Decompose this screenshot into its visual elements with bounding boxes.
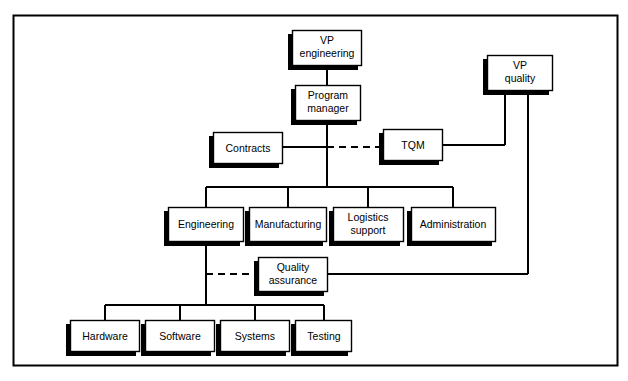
node-label-line2: support [350, 224, 385, 236]
node-manufacturing[interactable]: Manufacturing [245, 208, 327, 247]
node-label-line1: Program [308, 89, 349, 101]
node-systems[interactable]: Systems [216, 321, 290, 357]
node-label-line1: Quality [277, 261, 310, 273]
node-administration[interactable]: Administration [407, 208, 496, 247]
node-label-line1: Logistics [348, 211, 389, 223]
node-tqm[interactable]: TQM [379, 130, 443, 166]
node-testing[interactable]: Testing [291, 321, 352, 357]
node-vp-engineering[interactable]: VP engineering [288, 31, 362, 71]
org-chart-diagram: VP engineering Program manager VP qualit… [0, 0, 628, 381]
node-program-manager[interactable]: Program manager [291, 86, 361, 126]
node-logistics-support[interactable]: Logistics support [329, 208, 404, 247]
node-label-line2: assurance [269, 274, 318, 286]
node-label: Testing [307, 330, 340, 342]
node-label: Systems [235, 330, 275, 342]
node-label: Hardware [82, 330, 128, 342]
node-label: Manufacturing [255, 218, 322, 230]
node-contracts[interactable]: Contracts [209, 133, 283, 169]
node-vp-quality[interactable]: VP quality [483, 56, 553, 96]
node-label-line2: manager [307, 102, 349, 114]
node-label: Software [159, 330, 201, 342]
node-label-line2: engineering [300, 47, 355, 59]
node-label-line2: quality [505, 72, 536, 84]
node-label: Administration [420, 218, 487, 230]
node-engineering[interactable]: Engineering [164, 208, 244, 247]
node-software[interactable]: Software [141, 321, 215, 357]
node-label-line1: VP [513, 59, 527, 71]
node-quality-assurance[interactable]: Quality assurance [254, 258, 328, 297]
node-label: Engineering [178, 218, 234, 230]
node-hardware[interactable]: Hardware [66, 321, 140, 357]
node-label: Contracts [226, 142, 271, 154]
org-chart-canvas: VP engineering Program manager VP qualit… [0, 0, 628, 381]
node-label: TQM [401, 139, 424, 151]
node-label-line1: VP [320, 34, 334, 46]
